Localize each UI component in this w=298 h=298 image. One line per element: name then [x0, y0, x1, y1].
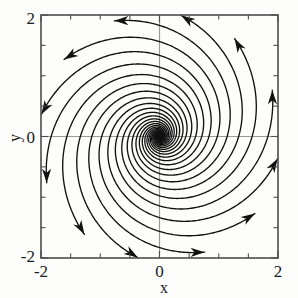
x-tick-label-min: -2 [34, 262, 48, 281]
y-tick-label-max: 2 [27, 9, 36, 28]
y-tick-label-min: -2 [21, 247, 35, 266]
x-tick-label-max: 2 [274, 262, 283, 281]
phase-portrait-figure: 2 0 -2 -2 0 2 x y [0, 0, 298, 298]
y-tick-label-mid: 0 [27, 128, 36, 147]
phase-portrait-plot: 2 0 -2 -2 0 2 x y [0, 0, 298, 298]
y-axis-title: y [6, 134, 24, 142]
x-axis-title: x [160, 279, 168, 296]
